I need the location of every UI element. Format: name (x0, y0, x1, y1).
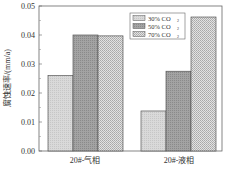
bar (73, 35, 98, 151)
legend-swatch-30 (133, 16, 145, 21)
bar-chart: 0.000.010.020.030.040.05 20#-气相 20#-液相 腐… (0, 0, 230, 174)
bar (141, 111, 166, 151)
y-tick-label: 0.01 (21, 118, 35, 127)
legend-label-30: 30% CO (148, 15, 171, 22)
y-tick-label: 0.00 (21, 147, 35, 156)
legend: 30% CO 2 50% CO 2 70% CO 2 (130, 13, 185, 39)
bar (98, 36, 123, 151)
y-tick-label: 0.05 (21, 2, 35, 11)
bar (48, 76, 73, 151)
legend-label-50: 50% CO (148, 23, 171, 30)
y-axis-label: 腐蚀速率/(mm/a) (2, 49, 12, 107)
bar (191, 17, 216, 151)
legend-subscript: 2 (177, 26, 179, 31)
x-category-label: 20#-液相 (164, 155, 195, 165)
y-tick-label: 0.03 (21, 60, 35, 69)
legend-subscript: 2 (177, 34, 179, 39)
y-tick-label: 0.02 (21, 89, 35, 98)
bar (166, 71, 191, 151)
y-tick-label: 0.04 (21, 31, 35, 40)
legend-swatch-50 (133, 24, 145, 29)
x-category-label: 20#-气相 (70, 155, 101, 165)
legend-label-70: 70% CO (148, 31, 171, 38)
legend-subscript: 2 (177, 18, 179, 23)
legend-swatch-70 (133, 32, 145, 37)
